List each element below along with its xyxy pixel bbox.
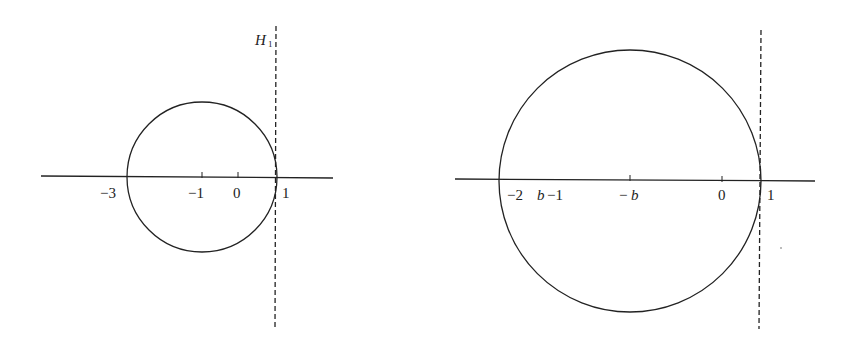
right-label-1: 1 <box>767 187 775 203</box>
left-label-1: 1 <box>282 185 290 201</box>
right-label-b1: b <box>537 187 545 203</box>
diagram-canvas: −3 −1 0 1 H 1 −2 b −1 − b 0 1 <box>0 0 848 346</box>
hyperplane-subscript: 1 <box>268 39 273 49</box>
left-panel: −3 −1 0 1 H 1 <box>41 26 333 328</box>
right-label-minus: − <box>619 187 627 203</box>
speck <box>780 247 782 249</box>
right-label-b2: b <box>631 187 639 203</box>
right-panel: −2 b −1 − b 0 1 <box>455 30 815 329</box>
left-label-0: 0 <box>233 185 241 201</box>
right-label-minus1: −1 <box>547 187 563 203</box>
hyperplane-label: H <box>254 32 267 48</box>
right-label-0: 0 <box>718 187 726 203</box>
figure: −3 −1 0 1 H 1 −2 b −1 − b 0 1 <box>0 0 848 346</box>
left-real-axis <box>41 176 333 178</box>
left-label-minus1: −1 <box>188 185 204 201</box>
right-label-minus2: −2 <box>507 187 523 203</box>
left-label-minus3: −3 <box>100 185 116 201</box>
